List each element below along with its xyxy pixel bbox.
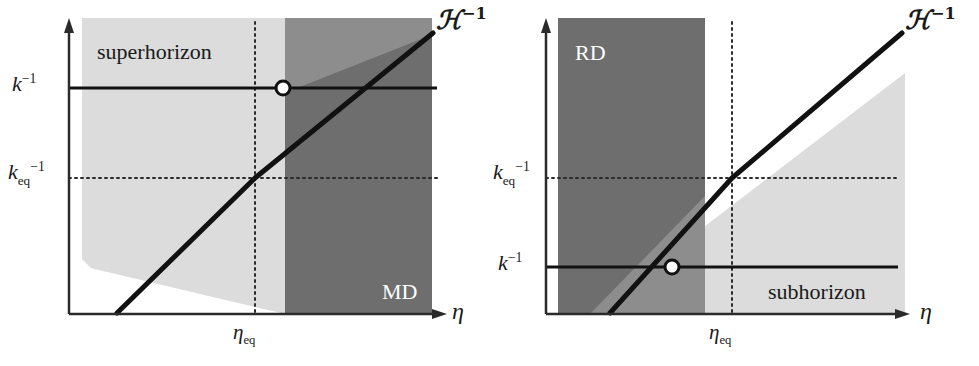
right-panel-plot [490, 0, 979, 366]
horizon-crossing-figure: k−1 keq−1 superhorizon MD ℋ−1 ηeq η [0, 0, 979, 366]
subhorizon-region-label: subhorizon [768, 281, 866, 303]
x-axis-label-eta: η [920, 299, 932, 323]
x-tick-label-eta-eq: ηeq [709, 322, 731, 347]
horizon-crossing-marker[interactable] [665, 260, 679, 274]
hubble-radius-curve-label: ℋ−1 [436, 6, 487, 33]
x-axis-label-eta: η [452, 299, 464, 323]
hubble-radius-curve-label: ℋ−1 [905, 6, 956, 33]
left-panel-superhorizon: k−1 keq−1 superhorizon MD ℋ−1 ηeq η [0, 0, 490, 366]
superhorizon-region-label: superhorizon [97, 41, 212, 63]
matter-domination-region [285, 18, 432, 314]
right-panel-subhorizon: keq−1 k−1 RD subhorizon ℋ−1 ηeq η [490, 0, 979, 366]
horizon-crossing-marker[interactable] [276, 81, 290, 95]
radiation-domination-label: RD [575, 42, 606, 64]
matter-domination-label: MD [382, 281, 417, 303]
y-tick-label-k-inverse: k−1 [498, 251, 522, 274]
y-tick-label-k-eq-inverse: keq−1 [8, 160, 45, 187]
y-axis-arrow [64, 18, 74, 33]
x-axis-arrow [432, 309, 447, 319]
y-axis-arrow [541, 18, 551, 33]
left-panel-plot [0, 0, 490, 366]
x-tick-label-eta-eq: ηeq [233, 322, 255, 347]
y-tick-label-k-eq-inverse: keq−1 [493, 160, 530, 187]
y-tick-label-k-inverse: k−1 [12, 72, 36, 95]
